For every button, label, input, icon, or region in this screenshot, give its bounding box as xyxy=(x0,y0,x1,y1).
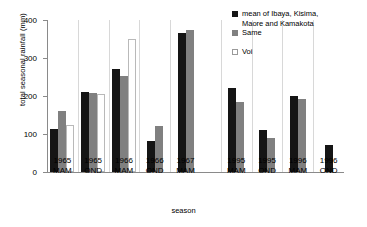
y-axis-line xyxy=(47,20,48,172)
x-axis-title: season xyxy=(0,206,367,215)
x-tick-year: 1966 xyxy=(139,156,170,166)
legend-swatch-black-icon xyxy=(232,11,238,17)
y-tick-200-label: 200 xyxy=(24,92,37,101)
x-tick-season: OND xyxy=(78,166,109,176)
x-tick-season: MAM xyxy=(221,166,252,176)
x-tick-year: 1995 xyxy=(252,156,283,166)
legend-item-same: Same xyxy=(232,28,318,38)
x-tick-season: OND xyxy=(252,166,283,176)
x-tick-season: MAM xyxy=(109,166,140,176)
legend-label-mean-line2: Maore and Kamakota xyxy=(242,19,314,28)
y-tick-300-mark: 300 xyxy=(43,58,47,59)
x-tick-1967-MAM: 1967MAM xyxy=(170,156,201,175)
legend-label-same: Same xyxy=(242,28,262,37)
legend: mean of Ibaya, Kisima, Maore and Kamakot… xyxy=(232,9,318,56)
legend-label-voi: Voi xyxy=(242,47,252,56)
x-tick-year: 1996 xyxy=(282,156,313,166)
group-separator xyxy=(139,20,140,172)
y-tick-100-mark: 100 xyxy=(43,134,47,135)
x-tick-season: OND xyxy=(313,166,344,176)
x-tick-year: 1966 xyxy=(109,156,140,166)
x-tick-year: 1967 xyxy=(170,156,201,166)
x-tick-year: 1965 xyxy=(78,156,109,166)
y-tick-400-label: 400 xyxy=(24,16,37,25)
x-tick-1966-OND: 1966OND xyxy=(139,156,170,175)
legend-item-voi: Voi xyxy=(232,47,318,57)
group-separator xyxy=(170,20,171,172)
bar-chart: total seasonal rainfall (mm) 400 300 200… xyxy=(0,0,367,227)
x-tick-year: 1995 xyxy=(221,156,252,166)
y-tick-100-label: 100 xyxy=(24,130,37,139)
x-tick-1966-MAM: 1966MAM xyxy=(109,156,140,175)
bar-1967-MAM-gray xyxy=(186,30,194,173)
x-tick-1965-OND: 1965OND xyxy=(78,156,109,175)
legend-swatch-gray-icon xyxy=(232,30,238,36)
x-tick-year: 1996 xyxy=(313,156,344,166)
legend-label-mean-line2-row: Maore and Kamakota xyxy=(232,19,318,29)
group-separator xyxy=(78,20,79,172)
legend-label-mean-line1: mean of Ibaya, Kisima, xyxy=(242,9,318,18)
x-tick-1996-MAM: 1996MAM xyxy=(282,156,313,175)
x-tick-season: MAM xyxy=(170,166,201,176)
x-tick-year: 1965 xyxy=(47,156,78,166)
x-tick-1996-OND: 1996OND xyxy=(313,156,344,175)
legend-item-mean: mean of Ibaya, Kisima, xyxy=(232,9,318,19)
y-tick-400-mark: 400 xyxy=(43,20,47,21)
y-tick-300-label: 300 xyxy=(24,54,37,63)
x-tick-season: OND xyxy=(139,166,170,176)
y-tick-0-label: 0 xyxy=(33,168,37,177)
x-tick-season: MAM xyxy=(282,166,313,176)
x-tick-1995-MAM: 1995MAM xyxy=(221,156,252,175)
group-separator xyxy=(221,20,222,172)
bar-1967-MAM-black xyxy=(178,33,186,172)
y-tick-200-mark: 200 xyxy=(43,96,47,97)
x-tick-1965-MAM: 1965MAM xyxy=(47,156,78,175)
legend-swatch-white-icon xyxy=(232,49,238,55)
group-separator xyxy=(109,20,110,172)
bar-1966-MAM-white xyxy=(128,39,136,172)
x-tick-season: MAM xyxy=(47,166,78,176)
x-tick-1995-OND: 1995OND xyxy=(252,156,283,175)
